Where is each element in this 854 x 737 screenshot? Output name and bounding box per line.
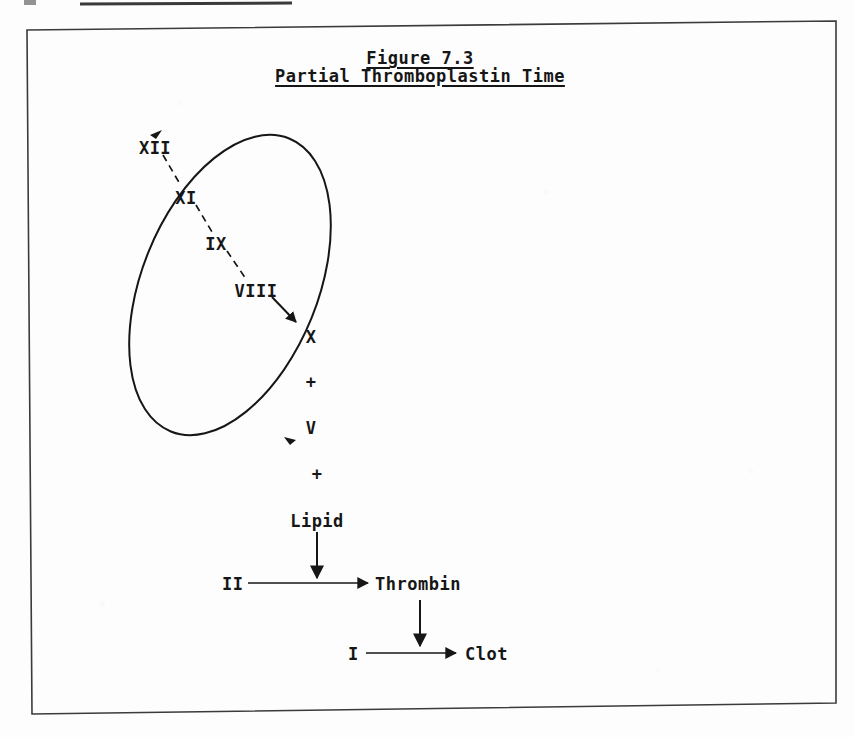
intrinsic-plus-symbol: + — [306, 372, 317, 392]
lipid-label: Lipid — [290, 511, 344, 531]
figure-title-line-2: Partial Thromboplastin Time — [275, 66, 565, 86]
fibrinogen-i-label: I — [348, 644, 359, 664]
paper-texture — [0, 0, 854, 737]
ellipse-outline — [89, 106, 371, 465]
factor-viii-label: VIII — [235, 281, 278, 301]
scan-artifact-rule — [80, 2, 292, 6]
dashed-link-xi-ix — [196, 205, 212, 232]
factor-v-label: V — [306, 418, 317, 438]
intrinsic-pathway-ellipse — [89, 106, 371, 465]
dashed-link-xii-xi — [163, 155, 180, 184]
prothrombin-ii-label: II — [222, 574, 243, 594]
thrombin-label: Thrombin — [375, 574, 461, 594]
common-plus-symbol: + — [312, 464, 323, 484]
factor-xii-label: XII — [139, 138, 171, 158]
scanned-figure-page: Figure 7.3 Partial Thromboplastin Time — [0, 0, 854, 737]
dashed-link-ix-viii — [227, 251, 246, 279]
frame-rectangle — [27, 21, 836, 714]
figure-border-frame — [0, 0, 854, 737]
figure-title-line-1: Figure 7.3 — [366, 48, 473, 68]
factor-x-label: X — [306, 327, 317, 347]
factor-xi-label: XI — [175, 188, 196, 208]
scan-artifact-mark — [24, 0, 36, 5]
diagram-vector-layer — [0, 0, 854, 737]
factor-ix-label: IX — [205, 234, 226, 254]
clot-label: Clot — [465, 644, 508, 664]
ellipse-arrowhead-bottom — [284, 437, 296, 445]
